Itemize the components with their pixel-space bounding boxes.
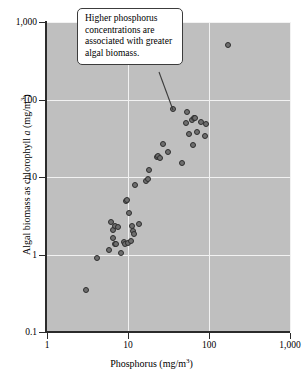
x-tick-mark <box>209 333 210 339</box>
data-point <box>94 255 100 261</box>
data-point <box>186 131 192 137</box>
y-axis-title-mid: (mg/m <box>21 101 32 130</box>
x-axis-title: Phosphorus (mg/m3) <box>0 355 303 370</box>
x-tick-label: 1 <box>45 340 50 350</box>
y-tick-mark <box>39 177 45 178</box>
x-tick-mark <box>47 333 48 339</box>
y-gridline <box>47 177 290 178</box>
y-tick-label: 0.1 <box>25 327 37 337</box>
data-point <box>131 231 137 237</box>
data-point <box>128 238 134 244</box>
y-axis-title-italic-a: a <box>21 130 32 135</box>
annotation-callout: Higher phosphorus concentrations are ass… <box>77 8 183 65</box>
data-point <box>136 221 142 227</box>
data-point <box>165 149 171 155</box>
x-tick-label: 10 <box>123 340 133 350</box>
data-point <box>126 210 132 216</box>
y-tick-mark <box>39 22 45 23</box>
y-axis-title-pre: Algal biomass as chlorophyll <box>21 135 32 254</box>
data-point <box>157 155 163 161</box>
x-gridline <box>290 22 291 332</box>
x-tick-label: 100 <box>202 340 216 350</box>
y-tick-label: 1,000 <box>16 17 37 27</box>
data-point <box>203 121 209 127</box>
data-point <box>190 142 196 148</box>
x-axis-line <box>45 331 290 333</box>
data-point <box>113 241 119 247</box>
annotation-line-2: concentrations are <box>85 25 176 37</box>
data-point <box>183 120 189 126</box>
annotation-line-4: algal biomass. <box>85 48 176 60</box>
x-axis-title-text: Phosphorus (mg/m <box>110 358 186 369</box>
data-point <box>110 235 116 241</box>
y-axis-line <box>45 21 47 333</box>
data-point <box>179 160 185 166</box>
y-tick-label: 1 <box>32 250 37 260</box>
data-point <box>194 129 200 135</box>
y-gridline <box>47 255 290 256</box>
y-tick-label: 100 <box>23 95 37 105</box>
data-point <box>146 167 152 173</box>
data-point <box>124 197 130 203</box>
plot-area <box>47 22 290 332</box>
data-point <box>202 133 208 139</box>
data-point <box>132 182 138 188</box>
data-point <box>145 176 151 182</box>
data-point <box>106 247 112 253</box>
data-point <box>225 42 231 48</box>
x-tick-label: 1,000 <box>279 340 300 350</box>
x-axis-title-paren: ) <box>190 358 193 369</box>
data-point <box>170 106 176 112</box>
y-gridline <box>47 100 290 101</box>
data-point <box>83 287 89 293</box>
y-tick-mark <box>39 332 45 333</box>
annotation-line-3: associated with greater <box>85 36 176 48</box>
x-tick-mark <box>290 333 291 339</box>
y-tick-mark <box>39 100 45 101</box>
x-tick-mark <box>128 333 129 339</box>
data-point <box>160 141 166 147</box>
y-tick-mark <box>39 255 45 256</box>
scatter-plot-figure: Higher phosphorus concentrations are ass… <box>0 0 303 374</box>
data-point <box>184 109 190 115</box>
y-tick-label: 10 <box>28 172 38 182</box>
data-point <box>115 224 121 230</box>
annotation-line-1: Higher phosphorus <box>85 13 176 25</box>
